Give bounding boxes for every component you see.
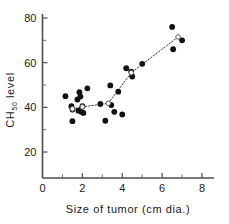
group-mean-marker — [106, 101, 111, 106]
x-axis-title: Size of tumor (cm dia.) — [66, 203, 190, 215]
data-point — [139, 61, 145, 67]
x-tick-label: 6 — [159, 182, 165, 194]
data-point — [77, 94, 83, 100]
y-axis-title: CH50 level — [4, 72, 18, 127]
data-point — [102, 118, 108, 124]
data-point — [170, 46, 176, 52]
y-axis-title-subscript: 50 — [11, 102, 18, 111]
chart-figure: 20406080 02468 CH50 level Size of tumor … — [0, 0, 229, 224]
data-point — [84, 85, 90, 91]
group-mean-marker — [129, 70, 134, 75]
scatter-plot: 20406080 02468 CH50 level Size of tumor … — [0, 0, 229, 224]
group-mean-marker — [176, 35, 181, 40]
data-point — [97, 101, 103, 107]
y-tick-label: 80 — [24, 12, 36, 24]
x-tick-label: 8 — [199, 182, 205, 194]
group-mean-marker — [80, 105, 85, 110]
data-point — [107, 83, 113, 89]
data-point — [119, 112, 125, 118]
data-point — [70, 118, 76, 124]
y-tick-label: 40 — [24, 101, 36, 113]
svg-text:CH50 level: CH50 level — [4, 72, 18, 127]
data-point — [111, 109, 117, 115]
x-tick-label: 4 — [119, 182, 125, 194]
group-mean-marker — [70, 107, 75, 112]
y-tick-label: 20 — [24, 146, 36, 158]
x-axis-tick-labels: 02468 — [39, 182, 205, 194]
y-axis-title-main: CH — [4, 111, 16, 128]
x-tick-label: 0 — [39, 182, 45, 194]
y-axis-title-tail: level — [4, 72, 16, 101]
x-tick-label: 2 — [79, 182, 85, 194]
data-point — [123, 65, 129, 71]
data-point — [169, 24, 175, 30]
data-point — [115, 89, 121, 95]
y-axis-tick-labels: 20406080 — [24, 12, 36, 158]
group-mean-markers — [70, 35, 180, 112]
trend-line — [72, 37, 178, 109]
y-tick-label: 60 — [24, 57, 36, 69]
data-point — [63, 93, 69, 99]
data-point — [80, 110, 86, 116]
